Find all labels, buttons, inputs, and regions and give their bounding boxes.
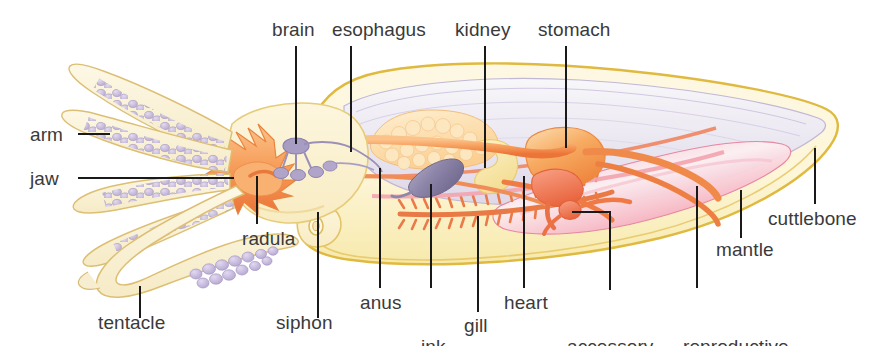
label-radula: radula xyxy=(242,228,295,249)
label-kidney: kidney xyxy=(455,19,511,40)
label-anus: anus xyxy=(360,292,402,313)
label-siphon: siphon xyxy=(276,312,333,333)
label-cuttlebone: cuttlebone xyxy=(768,208,857,229)
label-heart: heart xyxy=(504,292,548,313)
credit-fragment xyxy=(1,318,7,338)
label-stomach: stomach xyxy=(538,19,611,40)
label-esophagus: esophagus xyxy=(332,19,426,40)
label-ink-sac-line1: ink xyxy=(421,336,451,346)
label-mantle: mantle xyxy=(716,239,774,260)
label-ink-sac: ink sac xyxy=(421,292,451,346)
diagram-canvas: arm jaw tentacle radula siphon brain eso… xyxy=(0,0,878,346)
label-accessory-heart: accessory heart xyxy=(567,292,653,346)
label-gill: gill xyxy=(464,315,488,336)
label-brain: brain xyxy=(272,19,315,40)
label-tentacle: tentacle xyxy=(98,312,165,333)
label-reproductive-organ-line1: reproductive xyxy=(683,336,789,346)
label-reproductive-organ: reproductive organ xyxy=(683,292,789,346)
label-jaw: jaw xyxy=(30,168,59,189)
label-accessory-heart-line1: accessory xyxy=(567,336,653,346)
label-arm: arm xyxy=(30,124,63,145)
